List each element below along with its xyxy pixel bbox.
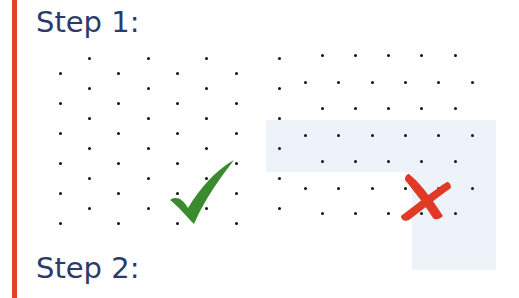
lattice-dot <box>147 117 150 120</box>
lattice-dot <box>117 132 120 135</box>
lattice-dot <box>278 87 281 90</box>
lattice-dot <box>205 147 208 150</box>
lattice-dot <box>337 81 340 84</box>
lattice-dot <box>278 177 281 180</box>
lattice-dot <box>59 192 62 195</box>
lattice-dot <box>278 57 281 60</box>
lattice-dot <box>471 187 474 190</box>
lattice-dot <box>471 81 474 84</box>
lattice-dot <box>354 160 357 163</box>
lattice-dot <box>304 187 307 190</box>
lattice-dot <box>420 107 423 110</box>
lattice-dot <box>117 192 120 195</box>
lattice-dot <box>371 134 374 137</box>
lattice-dot <box>235 132 238 135</box>
lattice-dot <box>321 160 324 163</box>
lattice-dot <box>88 57 91 60</box>
lattice-dot <box>404 81 407 84</box>
lattice-dot <box>387 160 390 163</box>
lattice-dot <box>371 187 374 190</box>
lattice-dot <box>387 54 390 57</box>
lattice-dot <box>354 54 357 57</box>
lattice-dot <box>176 72 179 75</box>
lattice-dot <box>278 207 281 210</box>
lattice-dot <box>371 81 374 84</box>
lattice-dot <box>235 102 238 105</box>
lattice-dot <box>321 54 324 57</box>
lattice-dot <box>354 212 357 215</box>
lattice-dot <box>420 160 423 163</box>
lattice-dot <box>147 147 150 150</box>
lattice-dot <box>59 132 62 135</box>
lattice-dot <box>437 81 440 84</box>
lattice-dot <box>147 177 150 180</box>
lattice-dot <box>387 212 390 215</box>
lattice-dot <box>437 134 440 137</box>
lattice-dot <box>205 57 208 60</box>
lattice-dot <box>278 147 281 150</box>
lattice-dot <box>147 207 150 210</box>
lattice-dot <box>117 72 120 75</box>
lattice-dot <box>321 212 324 215</box>
lattice-dot <box>454 212 457 215</box>
lattice-dot <box>117 222 120 225</box>
lattice-dot <box>404 134 407 137</box>
lattice-dot <box>176 132 179 135</box>
lattice-dot <box>88 117 91 120</box>
check-icon <box>166 158 238 228</box>
lattice-dot <box>59 102 62 105</box>
lattice-dot <box>88 87 91 90</box>
cross-icon <box>397 172 453 224</box>
lattice-dot <box>454 160 457 163</box>
lattice-dot <box>278 117 281 120</box>
lattice-dot <box>117 162 120 165</box>
lattice-dot <box>387 107 390 110</box>
lattice-dot <box>304 81 307 84</box>
lattice-dot <box>420 54 423 57</box>
lattice-dot <box>454 107 457 110</box>
lattice-dot <box>321 107 324 110</box>
lattice-dot <box>205 87 208 90</box>
lattice-dot <box>454 54 457 57</box>
lattice-dot <box>205 117 208 120</box>
step-1-heading: Step 1: <box>36 4 139 40</box>
lattice-dot <box>59 162 62 165</box>
lattice-dot <box>235 72 238 75</box>
lattice-dot <box>176 102 179 105</box>
lattice-dot <box>88 147 91 150</box>
lattice-dot <box>471 134 474 137</box>
accent-bar <box>12 0 17 298</box>
lattice-dot <box>88 207 91 210</box>
step-2-heading: Step 2: <box>36 250 139 286</box>
lattice-dot <box>59 72 62 75</box>
lattice-dot <box>147 87 150 90</box>
lattice-dot <box>59 222 62 225</box>
lattice-dot <box>88 177 91 180</box>
lattice-dot <box>117 102 120 105</box>
lattice-dot <box>354 107 357 110</box>
lattice-dot <box>337 134 340 137</box>
lattice-dot <box>147 57 150 60</box>
lattice-dot <box>337 187 340 190</box>
lattice-dot <box>304 134 307 137</box>
